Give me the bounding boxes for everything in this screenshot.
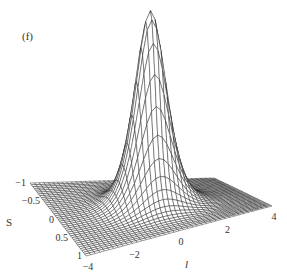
l-axis-label: l	[185, 258, 188, 270]
s-tick-label: 0.5	[56, 232, 69, 243]
s-axis-label: S	[6, 216, 12, 228]
s-tick-label: −0.5	[22, 195, 40, 206]
surface-mesh	[30, 11, 272, 256]
s-tick-label: 0	[49, 214, 54, 225]
l-tick-label: 4	[272, 211, 277, 222]
l-tick-label: 2	[225, 224, 230, 235]
surface-plot: (f) −1−0.500.51 −4−2024 S l	[0, 0, 287, 279]
s-tick-label: −1	[15, 177, 26, 188]
l-tick-label: 0	[179, 236, 184, 247]
l-tick-label: −4	[83, 261, 94, 272]
s-tick-label: 1	[77, 250, 82, 261]
l-tick-label: −2	[129, 249, 140, 260]
panel-label: (f)	[22, 30, 33, 43]
